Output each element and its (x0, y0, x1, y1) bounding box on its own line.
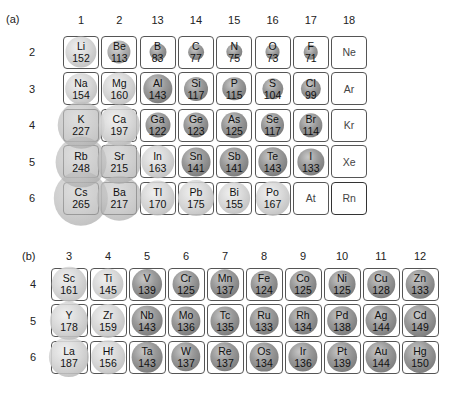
element-symbol: N (228, 40, 240, 52)
element-label: Sn141 (187, 150, 205, 174)
atomic-radius-value: 139 (138, 284, 156, 296)
panel-label-a: (a) (6, 13, 19, 25)
period-label: 6 (30, 351, 36, 363)
element-symbol: Sn (187, 150, 205, 162)
group-label: 16 (266, 14, 278, 26)
element-label: Sr215 (111, 150, 129, 174)
atomic-radius-value: 122 (149, 125, 167, 137)
element-symbol: Ag (372, 309, 390, 321)
element-symbol: Si (188, 77, 205, 89)
element-symbol: Xe (343, 156, 356, 168)
atomic-radius-value: 134 (294, 321, 312, 333)
element-label: Pt139 (333, 345, 351, 369)
element-label: Re137 (216, 345, 234, 369)
element-symbol: Nb (138, 309, 156, 321)
element-label: Bi155 (225, 186, 243, 210)
group-label: 4 (105, 250, 111, 262)
atomic-radius-value: 123 (187, 125, 205, 137)
element-label: N75 (228, 40, 240, 64)
element-symbol: Ba (111, 186, 129, 198)
element-label: Na154 (72, 77, 90, 101)
element-symbol: Li (72, 40, 90, 52)
element-symbol: Po (264, 186, 282, 198)
period-label: 5 (29, 156, 35, 168)
element-symbol: Au (372, 345, 390, 357)
atomic-radius-value: 115 (226, 89, 243, 101)
element-label: In163 (149, 150, 167, 174)
atomic-radius-value: 139 (333, 357, 351, 369)
element-symbol: Sb (225, 150, 243, 162)
atomic-radius-value: 114 (302, 125, 319, 137)
group-label: 14 (190, 14, 202, 26)
element-label: Cu128 (372, 272, 390, 296)
element-symbol: Ar (344, 83, 355, 95)
element-symbol: Te (264, 150, 282, 162)
atomic-radius-value: 125 (294, 284, 312, 296)
element-symbol: Hg (411, 345, 429, 357)
atomic-radius-value: 215 (111, 162, 129, 174)
element-label: B83 (152, 40, 164, 64)
element-label: Se117 (264, 113, 281, 137)
atomic-radius-value: 149 (411, 321, 429, 333)
element-label: Ca197 (111, 113, 129, 137)
atomic-radius-value: 152 (72, 52, 90, 64)
element-symbol: Cr (177, 272, 195, 284)
element-symbol: Cl (305, 77, 317, 89)
element-label: Mg160 (111, 77, 129, 101)
atomic-radius-value: 125 (333, 284, 351, 296)
atomic-radius-value: 175 (187, 198, 205, 210)
element-label: Sb141 (225, 150, 243, 174)
element-label: Br114 (302, 113, 319, 137)
element-symbol: Pb (187, 186, 205, 198)
element-label: K227 (72, 113, 90, 137)
element-symbol: P (226, 77, 243, 89)
element-label: Ge123 (187, 113, 205, 137)
element-symbol: Cd (411, 309, 429, 321)
atomic-radius-value: 141 (225, 162, 243, 174)
element-symbol: Ta (138, 345, 156, 357)
atomic-radius-value: 137 (216, 357, 234, 369)
panel-label-b: (b) (22, 250, 35, 262)
atomic-radius-value: 71 (305, 52, 317, 64)
atomic-radius-value: 141 (187, 162, 205, 174)
element-label: Hg150 (411, 345, 429, 369)
group-label: 7 (222, 250, 228, 262)
element-symbol: C (190, 40, 202, 52)
element-label: Y178 (60, 309, 78, 333)
element-label: Cl99 (305, 77, 317, 101)
atomic-radius-value: 156 (99, 357, 117, 369)
atomic-radius-value: 83 (152, 52, 164, 64)
element-label: Cr125 (177, 272, 195, 296)
element-symbol: Mo (177, 309, 195, 321)
element-symbol: Ir (294, 345, 312, 357)
atomic-radius-value: 137 (177, 357, 195, 369)
element-label: P115 (226, 77, 243, 101)
atomic-radius-value: 133 (411, 284, 429, 296)
atomic-radius-value: 145 (99, 284, 117, 296)
element-symbol: Br (302, 113, 319, 125)
element-label: S104 (264, 77, 282, 101)
element-symbol: Hf (99, 345, 117, 357)
element-label: Rh134 (294, 309, 312, 333)
element-label: Pb175 (187, 186, 205, 210)
element-symbol: S (264, 77, 282, 89)
element-symbol: W (177, 345, 195, 357)
atomic-radius-value: 160 (111, 89, 129, 101)
group-label: 5 (144, 250, 150, 262)
element-symbol: Tc (216, 309, 234, 321)
element-symbol: K (72, 113, 90, 125)
element-symbol: Kr (344, 119, 355, 131)
element-label: Nb143 (138, 309, 156, 333)
element-symbol: F (305, 40, 317, 52)
element-symbol: As (225, 113, 243, 125)
group-label: 10 (336, 250, 348, 262)
element-label: Po167 (264, 186, 282, 210)
element-symbol: Mn (216, 272, 234, 284)
element-symbol: Rn (342, 192, 355, 204)
element-symbol: Bi (225, 186, 243, 198)
element-label: Mn137 (216, 272, 234, 296)
element-label: Sc161 (60, 272, 78, 296)
element-label: As125 (225, 113, 243, 137)
element-symbol: Ni (333, 272, 351, 284)
period-label: 6 (29, 192, 35, 204)
